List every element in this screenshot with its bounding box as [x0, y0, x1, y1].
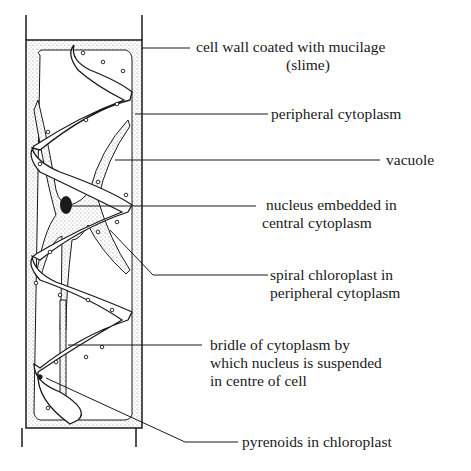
label-pyrenoids-text: pyrenoids in chloroplast: [242, 433, 392, 451]
label-peripheral-cytoplasm-text: peripheral cytoplasm: [271, 105, 401, 123]
label-cell-wall: cell wall coated with mucilage (slime): [196, 38, 385, 74]
label-pyrenoids: pyrenoids in chloroplast: [242, 433, 392, 451]
label-bridle-line3: in centre of cell: [210, 372, 382, 390]
label-bridle: bridle of cytoplasm by which nucleus is …: [210, 336, 382, 390]
label-cell-wall-line1: cell wall coated with mucilage: [196, 38, 385, 56]
label-bridle-line2: which nucleus is suspended: [210, 354, 382, 372]
label-nucleus-line2: central cytoplasm: [262, 214, 397, 232]
label-nucleus-line1: nucleus embedded in: [266, 196, 397, 214]
label-spiral-chloroplast-line2: peripheral cytoplasm: [270, 284, 400, 302]
label-bridle-line1: bridle of cytoplasm by: [210, 336, 382, 354]
label-vacuole-text: vacuole: [386, 151, 434, 169]
label-vacuole: vacuole: [386, 151, 434, 169]
label-cell-wall-line2: (slime): [196, 56, 385, 74]
label-spiral-chloroplast-line1: spiral chloroplast in: [270, 266, 400, 284]
label-nucleus: nucleus embedded in central cytoplasm: [266, 196, 397, 232]
label-peripheral-cytoplasm: peripheral cytoplasm: [271, 105, 401, 123]
label-spiral-chloroplast: spiral chloroplast in peripheral cytopla…: [270, 266, 400, 302]
nucleus: [60, 196, 72, 214]
